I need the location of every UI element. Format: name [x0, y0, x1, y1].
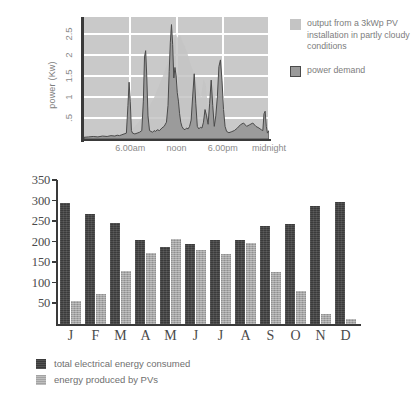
bottom-chart-x-label-1: F — [92, 328, 100, 344]
top-chart-x-tick-label-3: midnight — [252, 143, 286, 153]
top-chart-series-svg — [84, 17, 269, 139]
bar-consumed-6 — [210, 240, 220, 324]
top-chart-y-tick-label-4: 2.5 — [63, 27, 74, 40]
top-chart-x-axis-ticks: 6.00amnoon6.00pmmidnight — [84, 143, 284, 159]
top-chart-y-tick-label-1: 1 — [63, 94, 74, 99]
bar-produced-5 — [196, 250, 206, 324]
bar-consumed-2 — [110, 223, 120, 324]
bar-consumed-7 — [235, 240, 245, 324]
bottom-chart-y-tick-label-3: 200 — [32, 234, 50, 249]
top-chart-y-axis-label-text: power (Kw) — [47, 61, 57, 109]
bar-group-d-11 — [333, 180, 358, 324]
bar-consumed-5 — [185, 244, 195, 324]
bar-group-j-5 — [183, 180, 208, 324]
bar-group-m-4 — [158, 180, 183, 324]
top-chart-y-tick-3: 2 — [58, 49, 78, 61]
bottom-chart-x-label-5: J — [193, 328, 198, 344]
bottom-chart-x-label-11: D — [340, 328, 350, 344]
bar-group-a-3 — [133, 180, 158, 324]
top-chart-y-tick-label-2: 1.5 — [63, 69, 74, 82]
bar-consumed-4 — [160, 247, 170, 324]
bar-consumed-10 — [310, 206, 320, 324]
bar-group-j-0 — [58, 180, 83, 324]
bottom-chart-y-tick-label-4: 250 — [32, 214, 50, 229]
legend-swatch-pv-output — [290, 19, 301, 30]
bottom-chart-x-label-0: J — [68, 328, 73, 344]
bar-group-j-6 — [208, 180, 233, 324]
bottom-chart-x-label-8: S — [267, 328, 275, 344]
top-chart-legend: output from a 3kWp PV installation in pa… — [290, 18, 414, 89]
top-chart-y-axis-ticks: .511.522.5 — [58, 22, 78, 132]
bottom-chart-x-label-2: M — [114, 328, 126, 344]
bottom-chart-y-tick-label-6: 350 — [32, 173, 50, 188]
top-chart-y-tick-1: 1 — [58, 91, 78, 103]
monthly-energy-bar-chart: 50100150200250300350 JFMAMJJASOND total … — [0, 176, 414, 408]
top-chart-x-tick-label-2: 6.00pm — [208, 143, 238, 153]
top-chart-y-tick-4: 2.5 — [58, 28, 78, 40]
bar-consumed-9 — [285, 224, 295, 324]
bar-consumed-11 — [335, 202, 345, 324]
top-chart-y-tick-label-3: 2 — [63, 52, 74, 57]
legend-label-total-consumed: total electrical energy consumed — [54, 358, 190, 369]
bar-group-o-9 — [283, 180, 308, 324]
bottom-chart-y-tick-label-2: 150 — [32, 255, 50, 270]
bottom-chart-x-axis-line — [56, 324, 361, 326]
bar-produced-1 — [96, 294, 106, 324]
bar-group-n-10 — [308, 180, 333, 324]
bar-group-s-8 — [258, 180, 283, 324]
bar-group-f-1 — [83, 180, 108, 324]
top-chart-x-tick-label-1: noon — [166, 143, 186, 153]
bottom-chart-x-label-10: N — [315, 328, 325, 344]
legend-label-pv-produced: energy produced by PVs — [54, 374, 158, 385]
bar-produced-7 — [246, 243, 256, 324]
legend-swatch-total-consumed — [36, 359, 46, 369]
bottom-chart-y-axis-ticks: 50100150200250300350 — [16, 176, 50, 328]
bottom-chart-plot-area — [58, 180, 358, 324]
bottom-chart-y-tick-label-0: 50 — [38, 296, 50, 311]
legend-swatch-power-demand — [290, 66, 301, 77]
bar-consumed-8 — [260, 226, 270, 324]
bottom-chart-x-label-4: M — [164, 328, 176, 344]
daily-power-profile-chart: power (Kw) .511.522.5 6.00amnoon6.00pmmi… — [0, 0, 414, 170]
top-chart-x-axis-line — [81, 139, 271, 141]
top-chart-y-tick-0: .5 — [58, 112, 78, 124]
bar-consumed-0 — [60, 203, 70, 324]
legend-item-total-consumed: total electrical energy consumed — [36, 358, 296, 369]
bottom-chart-x-label-6: J — [218, 328, 223, 344]
bar-produced-9 — [296, 291, 306, 324]
bottom-chart-legend: total electrical energy consumed energy … — [36, 358, 296, 390]
top-chart-y-tick-2: 1.5 — [58, 70, 78, 82]
bar-produced-8 — [271, 272, 281, 324]
bar-produced-3 — [146, 253, 156, 324]
bar-produced-11 — [346, 319, 356, 324]
top-chart-y-tick-label-0: .5 — [63, 114, 74, 122]
bottom-chart-y-tick-label-1: 100 — [32, 275, 50, 290]
bar-produced-4 — [171, 239, 181, 324]
legend-label-power-demand: power demand — [307, 65, 365, 77]
bar-consumed-3 — [135, 240, 145, 324]
legend-item-pv-produced: energy produced by PVs — [36, 374, 296, 385]
bar-produced-0 — [71, 301, 81, 324]
bar-group-a-7 — [233, 180, 258, 324]
legend-swatch-pv-produced — [36, 375, 46, 385]
legend-item-power-demand: power demand — [290, 65, 414, 77]
bottom-chart-x-label-9: O — [290, 328, 300, 344]
bar-group-m-2 — [108, 180, 133, 324]
bar-produced-10 — [321, 314, 331, 324]
bar-produced-6 — [221, 254, 231, 324]
top-chart-plot-area — [84, 17, 269, 139]
legend-item-pv-output: output from a 3kWp PV installation in pa… — [290, 18, 414, 53]
bottom-chart-x-label-7: A — [240, 328, 250, 344]
legend-label-pv-output: output from a 3kWp PV installation in pa… — [307, 18, 414, 53]
bar-produced-2 — [121, 271, 131, 324]
top-chart-x-tick-label-0: 6.00am — [115, 143, 145, 153]
bar-consumed-1 — [85, 214, 95, 324]
bottom-chart-x-axis-labels: JFMAMJJASOND — [58, 328, 358, 348]
bottom-chart-y-tick-label-5: 300 — [32, 193, 50, 208]
bottom-chart-x-label-3: A — [140, 328, 150, 344]
